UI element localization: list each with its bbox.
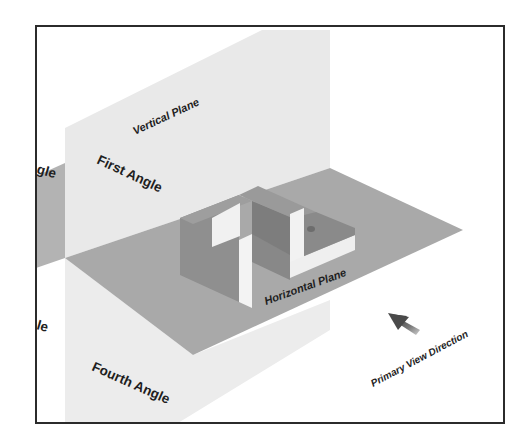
projection-diagram: Vertical Plane First Angle gle le Fourth… xyxy=(0,0,532,439)
view-arrow-icon xyxy=(388,313,420,335)
label-third-angle-partial: le xyxy=(35,317,50,335)
object-left-side-light xyxy=(239,234,252,308)
diagram-canvas: Vertical Plane First Angle gle le Fourth… xyxy=(0,0,532,439)
object-hole xyxy=(307,226,315,232)
label-primary-view-direction: Primary View Direction xyxy=(369,328,470,389)
